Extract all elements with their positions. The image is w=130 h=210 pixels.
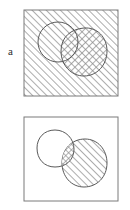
panel-a-graphic xyxy=(0,0,130,105)
panel-b: b xyxy=(0,105,130,210)
panel-a: a xyxy=(0,0,130,105)
figure-root: a b xyxy=(0,0,130,210)
panel-b-graphic xyxy=(0,105,130,210)
panel-a-right-blob xyxy=(61,28,107,76)
